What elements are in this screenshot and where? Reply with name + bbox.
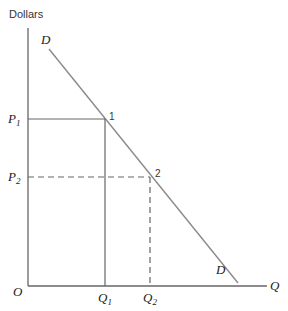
demand-diagram: Dollars Q O D D P1 P2 Q1 Q2 1 2 (0, 0, 288, 311)
p1-label: P1 (7, 111, 20, 128)
origin-label: O (13, 284, 23, 299)
p2-label: P2 (7, 169, 21, 186)
q1-label: Q1 (98, 290, 112, 307)
curve-label-bottom: D (215, 262, 226, 277)
demand-curve (49, 49, 238, 283)
point-1-label: 1 (109, 111, 115, 122)
point-2-label: 2 (155, 168, 161, 179)
curve-label-top: D (40, 32, 51, 47)
y-axis-label: Dollars (9, 8, 44, 20)
q2-label: Q2 (143, 290, 157, 307)
x-axis-label: Q (270, 278, 280, 293)
